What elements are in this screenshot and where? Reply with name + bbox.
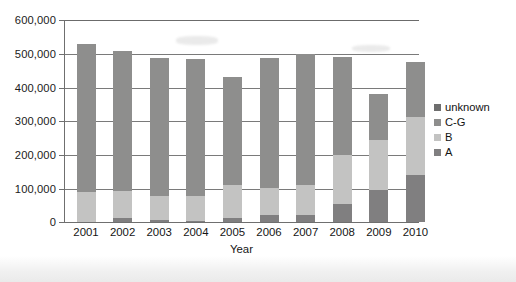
- bar-segment-2006-c-g: [260, 58, 279, 188]
- bar-segment-2009-b: [369, 140, 388, 191]
- bar-segment-2007-b: [296, 185, 315, 215]
- bar-2002[interactable]: [113, 20, 132, 222]
- legend-swatch-b: [434, 134, 441, 141]
- bar-segment-2010-c-g: [406, 62, 425, 118]
- bar-segment-2004-b: [186, 196, 205, 221]
- bar-segment-2008-c-g: [333, 57, 352, 155]
- bar-segment-2001-b: [77, 192, 96, 222]
- bar-2009[interactable]: [369, 20, 388, 222]
- legend-swatch-a: [434, 149, 441, 156]
- y-tick-label-600000: 600,000: [0, 14, 56, 26]
- x-axis-title: Year: [0, 243, 483, 255]
- bar-segment-2005-a: [223, 218, 242, 222]
- legend-swatch-unknown: [434, 104, 441, 111]
- bar-2007[interactable]: [296, 20, 315, 222]
- bar-segment-2005-b: [223, 185, 242, 218]
- bar-segment-2003-c-g: [150, 58, 169, 196]
- bar-2008[interactable]: [333, 20, 352, 222]
- bar-segment-2008-a: [333, 204, 352, 222]
- page-scan-noise: [0, 256, 516, 282]
- bar-segment-2001-c-g: [77, 44, 96, 191]
- y-tick-label-300000: 300,000: [0, 115, 56, 127]
- bar-segment-2006-b: [260, 188, 279, 215]
- legend-label-b: B: [445, 132, 452, 143]
- bar-segment-2010-a: [406, 175, 425, 222]
- bar-segment-2004-a: [186, 221, 205, 222]
- bar-2003[interactable]: [150, 20, 169, 222]
- bar-2004[interactable]: [186, 20, 205, 222]
- bar-2001[interactable]: [77, 20, 96, 222]
- stacked-bar-chart: 600,000 500,000 400,000 300,000 200,000 …: [0, 0, 516, 282]
- bar-segment-2008-b: [333, 155, 352, 204]
- legend-swatch-c-g: [434, 119, 441, 126]
- y-tick-label-200000: 200,000: [0, 149, 56, 161]
- bar-segment-2007-c-g: [296, 54, 315, 185]
- legend-item-c-g[interactable]: C-G: [434, 116, 514, 130]
- bar-2005[interactable]: [223, 20, 242, 222]
- bar-segment-2003-b: [150, 196, 169, 220]
- bar-segment-2009-a: [369, 190, 388, 222]
- bar-segment-2002-c-g: [113, 51, 132, 190]
- legend-label-c-g: C-G: [445, 117, 466, 128]
- bar-segment-2004-c-g: [186, 59, 205, 196]
- legend-item-unknown[interactable]: unknown: [434, 101, 514, 115]
- bar-segment-2005-c-g: [223, 77, 242, 184]
- bar-segment-2007-a: [296, 215, 315, 222]
- plot-area: [64, 20, 419, 222]
- bar-segment-2002-a: [113, 218, 132, 222]
- x-tick-label-2010: 2010: [393, 226, 437, 238]
- gridline-0: [64, 222, 419, 223]
- legend-item-b[interactable]: B: [434, 131, 514, 145]
- bar-segment-2006-a: [260, 215, 279, 222]
- bar-segment-2010-b: [406, 117, 425, 175]
- bar-segment-2002-b: [113, 191, 132, 218]
- bar-2006[interactable]: [260, 20, 279, 222]
- y-tick-label-500000: 500,000: [0, 48, 56, 60]
- bar-segment-2009-c-g: [369, 94, 388, 140]
- legend-label-unknown: unknown: [445, 102, 490, 113]
- legend-item-a[interactable]: A: [434, 146, 514, 160]
- legend-label-a: A: [445, 147, 452, 158]
- bar-segment-2003-a: [150, 220, 169, 222]
- y-tick-label-100000: 100,000: [0, 183, 56, 195]
- y-tick-label-400000: 400,000: [0, 82, 56, 94]
- y-tick-label-0: 0: [0, 216, 56, 228]
- bar-2010[interactable]: [406, 20, 425, 222]
- chart-legend: unknown C-G B A: [434, 101, 514, 161]
